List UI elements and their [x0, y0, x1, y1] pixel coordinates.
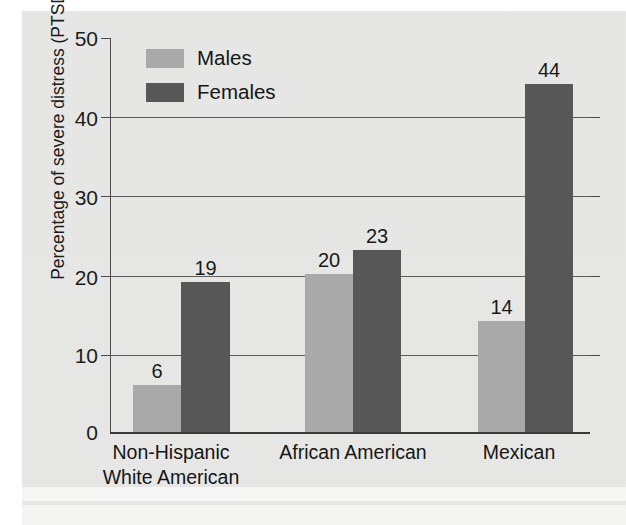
plot-area: 6 19 20 23 14 44 Males Females [110, 38, 590, 432]
legend-label-males: Males [197, 46, 252, 70]
legend-swatch-males-icon [146, 49, 184, 68]
chart-legend: Males Females [146, 43, 346, 111]
legend-item-females[interactable]: Females [146, 77, 346, 107]
y-tick-label-30: 30 [52, 186, 98, 210]
y-right-tick-30 [590, 196, 600, 197]
y-tick-mark-20 [101, 276, 110, 277]
x-category-label-african-american: African American [255, 440, 451, 465]
chart-screenshot: Percentage of severe distress (PTSD) 50 … [0, 0, 626, 525]
y-tick-mark-40 [101, 117, 110, 118]
bar-males-non-hispanic-white-american[interactable] [133, 385, 181, 432]
x-category-label-line1: Mexican [440, 440, 598, 465]
x-category-label-line1: Non-Hispanic [73, 440, 269, 465]
y-right-tick-10 [590, 355, 600, 356]
y-right-tick-40 [590, 117, 600, 118]
bar-females-mexican[interactable] [525, 84, 573, 432]
bar-value-males-group1: 6 [133, 360, 181, 383]
y-tick-label-10: 10 [52, 344, 98, 368]
bar-males-mexican[interactable] [478, 321, 525, 432]
y-tick-label-20: 20 [52, 266, 98, 290]
bar-males-african-american[interactable] [305, 274, 353, 432]
bar-value-females-group2: 23 [353, 225, 401, 248]
bar-value-males-group2: 20 [305, 249, 353, 272]
y-tick-mark-50 [101, 38, 110, 39]
x-axis-line [110, 432, 590, 434]
y-axis-line [110, 38, 111, 432]
bar-chart: Percentage of severe distress (PTSD) 50 … [0, 0, 626, 525]
gridline-30 [110, 196, 590, 197]
legend-item-males[interactable]: Males [146, 43, 346, 73]
bar-females-non-hispanic-white-american[interactable] [181, 282, 230, 432]
y-tick-mark-30 [101, 196, 110, 197]
x-category-label-non-hispanic-white-american: Non-Hispanic White American [73, 440, 269, 490]
legend-label-females: Females [197, 80, 276, 104]
y-tick-label-50: 50 [52, 27, 98, 51]
x-category-label-line2: White American [73, 465, 269, 490]
y-tick-mark-10 [101, 355, 110, 356]
x-category-label-mexican: Mexican [440, 440, 598, 465]
bar-females-african-american[interactable] [353, 250, 401, 432]
x-category-label-line1: African American [255, 440, 451, 465]
bar-value-females-group1: 19 [181, 257, 230, 280]
y-right-tick-20 [590, 276, 600, 277]
bar-value-males-group3: 14 [478, 296, 525, 319]
bar-value-females-group3: 44 [525, 59, 573, 82]
legend-swatch-females-icon [146, 83, 184, 102]
y-tick-label-40: 40 [52, 107, 98, 131]
gridline-40 [110, 117, 590, 118]
